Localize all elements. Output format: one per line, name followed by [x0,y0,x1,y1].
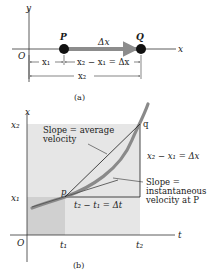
position-axis-label: x [25,107,30,117]
displacement-label: Δx [97,37,110,47]
time-axis-label: t [178,230,182,240]
diagram-b: x t O x₂ x₁ t₁ t₂ p q Slope = average ve… [10,104,206,270]
diagram-a: y x O Δx P Q x₁ x₂ − x₁ = Δx x₂ (a) [12,3,183,102]
point-p-dot [59,44,69,54]
point-q-label: Q [136,32,144,42]
tick-t2: t₂ [136,240,144,250]
dim-diff-label: x₂ − x₁ = Δx [77,57,130,67]
delta-t-label: t₂ − t₁ = Δt [74,200,123,210]
avg-velocity-label-2: velocity [42,134,77,144]
point-q-dot [136,44,146,54]
x-axis-label: x [178,44,183,54]
tick-x1: x₁ [11,193,20,203]
caption-b: (b) [73,261,84,270]
point-p-label-b: p [61,187,67,197]
tick-t1: t₁ [60,240,67,250]
dim-x2-label: x₂ [78,71,86,81]
kinematics-figure: y x O Δx P Q x₁ x₂ − x₁ = Δx x₂ (a) x [0,0,219,275]
delta-x-label: x₂ − x₁ = Δx [147,151,200,161]
point-q-label-b: q [143,119,149,129]
dim-x1-label: x₁ [42,57,50,67]
y-axis-label: y [25,3,32,13]
caption-a: (a) [74,93,85,102]
point-p-label: P [59,32,67,42]
tick-x2: x₂ [11,120,20,130]
origin-label: O [18,51,26,61]
origin-label-b: O [17,238,25,248]
inst-velocity-label-3: velocity at P [145,195,199,205]
